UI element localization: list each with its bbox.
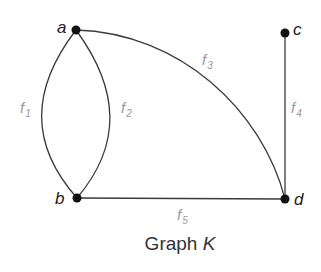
edge-label-f5: f5 [177,206,188,226]
edge-f5 [77,198,285,199]
vertex-b [73,194,82,203]
graph-title: Graph K [145,233,217,254]
vertex-label-d: d [294,190,304,209]
edge-f1 [42,30,77,198]
edge-label-f1: f1 [20,99,31,119]
graph-canvas: a b c d f1 f2 f3 f4 f5 Graph K [0,0,321,272]
vertex-c [281,29,290,38]
edge-label-f3: f3 [202,51,213,71]
graph-diagram: a b c d f1 f2 f3 f4 f5 Graph K [0,0,321,272]
vertex-label-a: a [57,18,66,37]
vertex-label-b: b [55,189,64,208]
vertex-label-c: c [293,20,302,39]
vertex-d [281,195,290,204]
edge-f2 [76,30,110,198]
edge-label-f4: f4 [291,99,302,119]
vertex-a [72,26,81,35]
edge-f3 [76,30,285,199]
edge-label-f2: f2 [121,99,132,119]
